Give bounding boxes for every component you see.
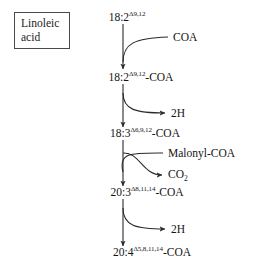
node-superscript: Δ5,8,11,14 xyxy=(133,245,163,253)
side-label-2h-second: 2H xyxy=(171,223,185,236)
node-base: 20:4 xyxy=(113,246,133,258)
node-label-18-2-d9-12: 18:2Δ9,12 xyxy=(109,11,146,24)
node-superscript: Δ9,12 xyxy=(129,10,145,18)
node-suffix: -COA xyxy=(155,186,183,198)
branch-arrow-co2-out xyxy=(123,153,162,175)
node-superscript: Δ6,9,12 xyxy=(131,126,152,134)
node-base: 20:3 xyxy=(110,186,130,198)
side-label-co2: CO2 xyxy=(168,168,188,181)
side-label-2h-first: 2H xyxy=(171,107,185,120)
node-suffix: -COA xyxy=(145,71,173,83)
node-label-20-3-d8-11-14-coa: 20:3Δ8,11,14-COA xyxy=(110,186,183,199)
node-label-18-3-d6-9-12-coa: 18:3Δ6,9,12-COA xyxy=(110,127,180,140)
node-superscript: Δ8,11,14 xyxy=(131,185,155,193)
node-base: 18:3 xyxy=(110,127,130,139)
node-base: 18:2 xyxy=(109,71,129,83)
linoleic-acid-tag-line-2: acid xyxy=(21,30,63,44)
side-label-coa: COA xyxy=(173,31,197,44)
linoleic-acid-tag: Linoleic acid xyxy=(14,12,70,49)
side-label-malonyl-coa: Malonyl-COA xyxy=(168,147,235,160)
co2-base: CO xyxy=(168,168,184,180)
node-base: 18:2 xyxy=(109,11,129,23)
branch-arrow-2h-out-2 xyxy=(123,208,165,229)
pathway-diagram: Linoleic acid 18:2Δ9,12 18:2Δ9,12-COA 18… xyxy=(0,0,260,270)
node-superscript: Δ9,12 xyxy=(129,70,145,78)
linoleic-acid-tag-line-1: Linoleic xyxy=(21,16,63,30)
node-label-20-4-d5-8-11-14-coa: 20:4Δ5,8,11,14-COA xyxy=(113,246,191,259)
branch-arrow-coa-in xyxy=(123,37,168,62)
branch-arrow-malonyl-in xyxy=(122,153,163,172)
branch-arrow-2h-out-1 xyxy=(123,93,165,113)
co2-subscript: 2 xyxy=(184,174,188,183)
node-suffix: -COA xyxy=(152,127,180,139)
node-suffix: -COA xyxy=(163,246,191,258)
node-label-18-2-d9-12-coa: 18:2Δ9,12-COA xyxy=(109,71,174,84)
